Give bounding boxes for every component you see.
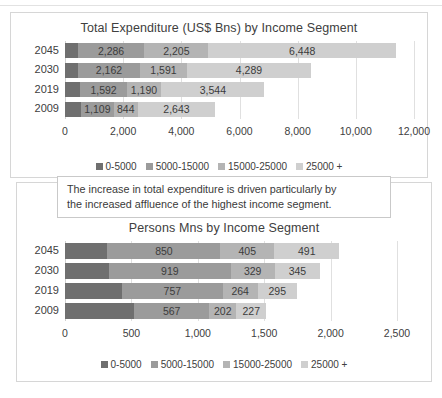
bar-value-label: 2,205 xyxy=(163,45,189,57)
bar-segment-2009-15000-25000[interactable]: 202 xyxy=(209,303,236,319)
x-tick-label: 6,000 xyxy=(226,125,252,137)
x-tick-label: 1,000 xyxy=(185,327,211,339)
legend-item-5000-15000[interactable]: 5000-15000 xyxy=(151,359,214,370)
category-label-2030: 2030 xyxy=(25,264,59,276)
bar-segment-2030-15000-25000[interactable]: 329 xyxy=(231,263,275,279)
bar-segment-2030-5000-15000[interactable]: 919 xyxy=(109,263,231,279)
chart-title-expenditure: Total Expenditure (US$ Bns) by Income Se… xyxy=(11,21,427,35)
x-tick-label: 1,500 xyxy=(251,327,277,339)
x-tick-label: 0 xyxy=(62,125,68,137)
legend-item-15000-25000[interactable]: 15000-25000 xyxy=(223,359,292,370)
legend-swatch-icon xyxy=(101,361,108,368)
legend-label: 15000-25000 xyxy=(228,161,287,172)
chart-legend-persons: 0-50005000-1500015000-2500025000 + xyxy=(17,359,431,370)
bar-2019[interactable]: 1,5921,1903,544 xyxy=(65,82,414,97)
bar-2009[interactable]: 1,1098442,643 xyxy=(65,102,414,117)
bar-value-label: 2,286 xyxy=(98,45,124,57)
bar-2009[interactable]: 567202227 xyxy=(65,303,397,319)
x-tick-label: 2,000 xyxy=(317,327,343,339)
bar-2030[interactable]: 2,1621,5914,289 xyxy=(65,63,414,78)
bar-2019[interactable]: 757264295 xyxy=(65,283,397,299)
legend-item-0-5000[interactable]: 0-5000 xyxy=(96,161,137,172)
legend-item-25000[interactable]: 25000 + xyxy=(296,161,342,172)
legend-swatch-icon xyxy=(146,163,153,170)
legend-item-15000-25000[interactable]: 15000-25000 xyxy=(218,161,287,172)
bar-segment-2045-5000-15000[interactable]: 850 xyxy=(107,243,220,259)
plot-area-persons: 2045850405491203091932934520197572642952… xyxy=(65,241,397,321)
bar-value-label: 844 xyxy=(117,103,135,115)
legend-label: 25000 + xyxy=(306,161,342,172)
bar-segment-2045-15000-25000[interactable]: 2,205 xyxy=(144,43,208,58)
bar-2030[interactable]: 919329345 xyxy=(65,263,397,279)
bar-value-label: 850 xyxy=(155,245,173,257)
bar-value-label: 567 xyxy=(163,305,181,317)
bar-segment-2019-5000-15000[interactable]: 1,592 xyxy=(80,82,126,97)
plot-area-expenditure: 20452,2862,2056,44820302,1621,5914,28920… xyxy=(65,41,414,119)
x-tick-label: 10,000 xyxy=(340,125,372,137)
bar-segment-2019-25000 +[interactable]: 3,544 xyxy=(161,82,264,97)
legend-swatch-icon xyxy=(151,361,158,368)
legend-label: 5000-15000 xyxy=(161,359,214,370)
bar-segment-2030-0-5000[interactable] xyxy=(65,63,78,78)
legend-swatch-icon xyxy=(96,163,103,170)
legend-label: 5000-15000 xyxy=(156,161,209,172)
chart-card-expenditure: Total Expenditure (US$ Bns) by Income Se… xyxy=(10,12,428,178)
legend-label: 15000-25000 xyxy=(233,359,292,370)
bar-segment-2009-15000-25000[interactable]: 844 xyxy=(114,102,139,117)
bar-segment-2019-25000 +[interactable]: 295 xyxy=(258,283,297,299)
chart-legend-expenditure: 0-50005000-1500015000-2500025000 + xyxy=(11,161,427,172)
bar-segment-2019-0-5000[interactable] xyxy=(65,82,80,97)
x-tick-label: 2,500 xyxy=(384,327,410,339)
bar-value-label: 2,643 xyxy=(163,103,189,115)
bar-segment-2009-25000 +[interactable]: 2,643 xyxy=(138,102,215,117)
gridline xyxy=(397,241,398,321)
bar-segment-2045-25000 +[interactable]: 491 xyxy=(274,243,339,259)
bar-value-label: 1,592 xyxy=(90,84,116,96)
bar-segment-2045-25000 +[interactable]: 6,448 xyxy=(208,43,396,58)
bar-segment-2009-5000-15000[interactable]: 1,109 xyxy=(81,102,113,117)
legend-swatch-icon xyxy=(218,163,225,170)
gridline xyxy=(414,41,415,119)
x-tick-label: 12,000 xyxy=(398,125,430,137)
bar-segment-2009-25000 +[interactable]: 227 xyxy=(236,303,266,319)
bar-2045[interactable]: 850405491 xyxy=(65,243,397,259)
bar-value-label: 345 xyxy=(289,265,307,277)
bar-segment-2019-15000-25000[interactable]: 264 xyxy=(223,283,258,299)
bar-segment-2045-0-5000[interactable] xyxy=(65,43,78,58)
bar-2045[interactable]: 2,2862,2056,448 xyxy=(65,43,414,58)
bar-segment-2030-5000-15000[interactable]: 2,162 xyxy=(78,63,141,78)
legend-label: 25000 + xyxy=(311,359,347,370)
bar-segment-2030-15000-25000[interactable]: 1,591 xyxy=(140,63,186,78)
callout-line-2: the increased affluence of the highest i… xyxy=(67,197,381,212)
bar-segment-2030-0-5000[interactable] xyxy=(65,263,109,279)
bar-segment-2019-5000-15000[interactable]: 757 xyxy=(122,283,223,299)
bar-value-label: 227 xyxy=(242,305,260,317)
bar-value-label: 202 xyxy=(214,305,232,317)
category-label-2019: 2019 xyxy=(25,83,59,95)
page-top-edge xyxy=(0,5,442,6)
bar-value-label: 1,591 xyxy=(150,64,176,76)
bar-segment-2045-5000-15000[interactable]: 2,286 xyxy=(78,43,144,58)
legend-item-0-5000[interactable]: 0-5000 xyxy=(101,359,142,370)
bar-segment-2045-0-5000[interactable] xyxy=(65,243,107,259)
legend-item-25000[interactable]: 25000 + xyxy=(301,359,347,370)
bar-segment-2009-5000-15000[interactable]: 567 xyxy=(134,303,209,319)
bar-segment-2030-25000 +[interactable]: 345 xyxy=(275,263,321,279)
x-tick-label: 4,000 xyxy=(168,125,194,137)
legend-label: 0-5000 xyxy=(106,161,137,172)
bar-segment-2019-0-5000[interactable] xyxy=(65,283,122,299)
bar-segment-2009-0-5000[interactable] xyxy=(65,303,134,319)
bar-value-label: 1,109 xyxy=(84,103,110,115)
bar-segment-2009-0-5000[interactable] xyxy=(65,102,81,117)
bar-value-label: 329 xyxy=(244,265,262,277)
bar-segment-2019-15000-25000[interactable]: 1,190 xyxy=(127,82,162,97)
bar-value-label: 2,162 xyxy=(96,64,122,76)
bar-segment-2045-15000-25000[interactable]: 405 xyxy=(220,243,274,259)
bar-value-label: 491 xyxy=(298,245,316,257)
legend-item-5000-15000[interactable]: 5000-15000 xyxy=(146,161,209,172)
callout-line-1: The increase in total expenditure is dri… xyxy=(67,182,381,197)
bar-value-label: 3,544 xyxy=(200,84,226,96)
legend-swatch-icon xyxy=(223,361,230,368)
bar-segment-2030-25000 +[interactable]: 4,289 xyxy=(187,63,312,78)
bar-value-label: 295 xyxy=(269,285,287,297)
